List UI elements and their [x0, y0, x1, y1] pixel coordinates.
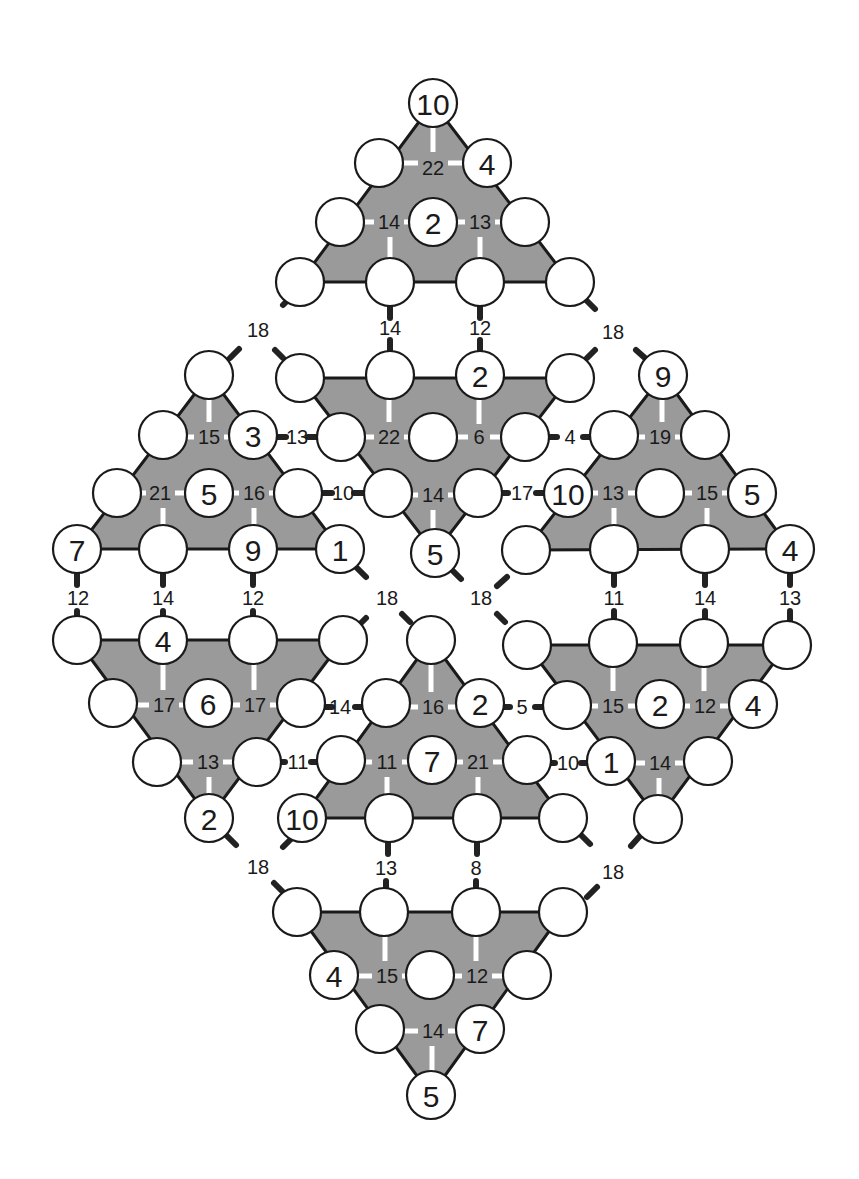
- empty-cell[interactable]: [503, 621, 551, 669]
- empty-cell[interactable]: [501, 413, 549, 461]
- cell-circle[interactable]: [355, 139, 403, 187]
- empty-cell[interactable]: [277, 679, 325, 727]
- empty-cell[interactable]: [546, 354, 594, 402]
- cell-circle[interactable]: [452, 888, 500, 936]
- cell-circle[interactable]: [502, 526, 550, 574]
- empty-cell[interactable]: [503, 736, 551, 784]
- cell-circle[interactable]: [409, 413, 457, 461]
- empty-cell[interactable]: [317, 413, 365, 461]
- cell-circle[interactable]: [139, 525, 187, 573]
- empty-cell[interactable]: [233, 738, 281, 786]
- empty-cell[interactable]: [503, 951, 551, 999]
- empty-cell[interactable]: [684, 737, 732, 785]
- cell-circle[interactable]: [273, 888, 321, 936]
- cell-circle[interactable]: [317, 413, 365, 461]
- cell-circle[interactable]: [356, 1005, 404, 1053]
- cell-circle[interactable]: [543, 681, 591, 729]
- empty-cell[interactable]: [589, 619, 637, 667]
- empty-cell[interactable]: [360, 888, 408, 936]
- empty-cell[interactable]: [316, 198, 364, 246]
- empty-cell[interactable]: [453, 794, 501, 842]
- cell-circle[interactable]: [501, 413, 549, 461]
- cell-circle[interactable]: [454, 469, 502, 517]
- cell-circle[interactable]: [589, 619, 637, 667]
- empty-cell[interactable]: [276, 258, 324, 306]
- empty-cell[interactable]: [546, 258, 594, 306]
- empty-cell[interactable]: [319, 616, 367, 664]
- cell-circle[interactable]: [274, 469, 322, 517]
- empty-cell[interactable]: [406, 951, 454, 999]
- cell-circle[interactable]: [316, 198, 364, 246]
- empty-cell[interactable]: [502, 526, 550, 574]
- cell-circle[interactable]: [684, 737, 732, 785]
- cell-circle[interactable]: [634, 795, 682, 843]
- cell-circle[interactable]: [503, 951, 551, 999]
- cell-circle[interactable]: [763, 621, 811, 669]
- cell-circle[interactable]: [503, 621, 551, 669]
- cell-circle[interactable]: [453, 794, 501, 842]
- cell-circle[interactable]: [93, 469, 141, 517]
- cell-circle[interactable]: [366, 351, 414, 399]
- cell-circle[interactable]: [539, 794, 587, 842]
- empty-cell[interactable]: [365, 794, 413, 842]
- cell-circle[interactable]: [53, 616, 101, 664]
- cell-circle[interactable]: [319, 616, 367, 664]
- empty-cell[interactable]: [543, 681, 591, 729]
- cell-circle[interactable]: [362, 679, 410, 727]
- cell-circle[interactable]: [681, 525, 729, 573]
- cell-circle[interactable]: [139, 411, 187, 459]
- cell-circle[interactable]: [456, 258, 504, 306]
- empty-cell[interactable]: [274, 469, 322, 517]
- empty-cell[interactable]: [276, 354, 324, 402]
- empty-cell[interactable]: [454, 469, 502, 517]
- empty-cell[interactable]: [317, 736, 365, 784]
- empty-cell[interactable]: [539, 888, 587, 936]
- empty-cell[interactable]: [590, 411, 638, 459]
- empty-cell[interactable]: [539, 794, 587, 842]
- cell-circle[interactable]: [133, 738, 181, 786]
- empty-cell[interactable]: [133, 738, 181, 786]
- cell-circle[interactable]: [546, 354, 594, 402]
- cell-circle[interactable]: [233, 738, 281, 786]
- cell-circle[interactable]: [681, 411, 729, 459]
- empty-cell[interactable]: [409, 413, 457, 461]
- cell-circle[interactable]: [364, 469, 412, 517]
- empty-cell[interactable]: [364, 469, 412, 517]
- empty-cell[interactable]: [634, 795, 682, 843]
- empty-cell[interactable]: [366, 258, 414, 306]
- empty-cell[interactable]: [407, 616, 455, 664]
- cell-circle[interactable]: [407, 616, 455, 664]
- empty-cell[interactable]: [229, 616, 277, 664]
- empty-cell[interactable]: [636, 469, 684, 517]
- cell-circle[interactable]: [539, 888, 587, 936]
- cell-circle[interactable]: [590, 411, 638, 459]
- cell-circle[interactable]: [503, 736, 551, 784]
- cell-circle[interactable]: [365, 794, 413, 842]
- empty-cell[interactable]: [501, 198, 549, 246]
- cell-circle[interactable]: [276, 354, 324, 402]
- cell-circle[interactable]: [185, 351, 233, 399]
- empty-cell[interactable]: [366, 351, 414, 399]
- cell-circle[interactable]: [366, 258, 414, 306]
- cell-circle[interactable]: [590, 525, 638, 573]
- cell-circle[interactable]: [636, 469, 684, 517]
- cell-circle[interactable]: [89, 679, 137, 727]
- empty-cell[interactable]: [356, 1005, 404, 1053]
- cell-circle[interactable]: [229, 616, 277, 664]
- cell-circle[interactable]: [276, 258, 324, 306]
- empty-cell[interactable]: [362, 679, 410, 727]
- empty-cell[interactable]: [89, 679, 137, 727]
- empty-cell[interactable]: [185, 351, 233, 399]
- cell-circle[interactable]: [317, 736, 365, 784]
- empty-cell[interactable]: [139, 411, 187, 459]
- empty-cell[interactable]: [355, 139, 403, 187]
- cell-circle[interactable]: [680, 619, 728, 667]
- empty-cell[interactable]: [681, 411, 729, 459]
- empty-cell[interactable]: [680, 619, 728, 667]
- empty-cell[interactable]: [53, 616, 101, 664]
- empty-cell[interactable]: [763, 621, 811, 669]
- empty-cell[interactable]: [590, 525, 638, 573]
- empty-cell[interactable]: [681, 525, 729, 573]
- cell-circle[interactable]: [501, 198, 549, 246]
- cell-circle[interactable]: [546, 258, 594, 306]
